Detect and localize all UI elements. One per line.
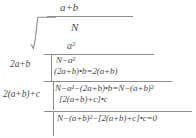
radicand-label: N (71, 22, 78, 33)
quotient-label: a+b (60, 2, 78, 13)
divisor-label-1: 2a+b (10, 60, 30, 70)
sqrt-radical-icon (30, 12, 56, 50)
subtraction-rule-2 (44, 81, 172, 82)
remainder-line-2: N−a²−(2a+b)•b=N−(a+b)² (55, 84, 153, 93)
subtraction-rule-3 (44, 111, 192, 112)
vinculum-rule (47, 16, 133, 17)
divisor-separator-1 (51, 55, 52, 81)
square-root-division-diagram: a+b N a² 2a+b N−a² (2a+b)•b=2(a+b) 2(a+b… (0, 0, 196, 138)
remainder-line-3: N−(a+b)²−[2(a+b)+c]•c=0 (57, 114, 157, 123)
product-line-2: [2(a+b)+c]•c (59, 95, 108, 104)
divisor-label-2: 2(a+b)+c (3, 90, 40, 100)
final-line-separator (53, 112, 54, 136)
product-line-1: (2a+b)•b=2(a+b) (54, 67, 117, 76)
remainder-line-1: N−a² (56, 56, 75, 65)
first-subtrahend-label: a² (67, 41, 75, 51)
divisor-separator-2 (53, 82, 54, 110)
